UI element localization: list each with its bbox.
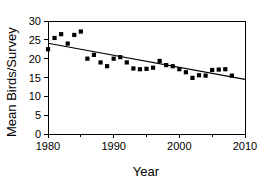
data-point: [184, 70, 188, 74]
data-point: [59, 32, 63, 36]
y-tick-label-30: 30: [29, 15, 41, 27]
x-tick-label-1980: 1980: [36, 140, 60, 152]
y-axis-title: Mean Birds/Survey: [4, 27, 19, 137]
data-point: [204, 74, 208, 78]
data-point: [217, 67, 221, 71]
trend-line: [48, 43, 245, 79]
data-point: [46, 47, 50, 51]
plot-frame: [48, 21, 245, 134]
chart-page: 051015202530 1980199020002010 Mean Birds…: [0, 0, 272, 182]
data-point: [66, 42, 70, 46]
data-point: [52, 36, 56, 40]
trend-line-group: [48, 43, 245, 79]
data-point: [92, 53, 96, 57]
scatter-chart: 051015202530 1980199020002010 Mean Birds…: [0, 0, 272, 182]
data-point: [171, 64, 175, 68]
plot-border: [48, 21, 245, 134]
data-point: [158, 59, 162, 63]
y-tick-label-0: 0: [35, 128, 41, 140]
data-point: [164, 63, 168, 67]
data-point: [197, 73, 201, 77]
y-axis-ticks: 051015202530: [29, 15, 48, 140]
data-point: [131, 66, 135, 70]
data-point: [118, 55, 122, 59]
y-tick-label-25: 25: [29, 34, 41, 46]
data-point: [79, 29, 83, 33]
data-point: [190, 76, 194, 80]
x-tick-label-1990: 1990: [101, 140, 125, 152]
data-point: [223, 67, 227, 71]
data-point: [230, 74, 234, 78]
x-tick-label-2010: 2010: [233, 140, 257, 152]
data-point: [151, 66, 155, 70]
data-point: [105, 64, 109, 68]
y-tick-label-10: 10: [29, 90, 41, 102]
data-point: [138, 67, 142, 71]
data-point: [144, 67, 148, 71]
data-point: [72, 33, 76, 37]
y-tick-label-5: 5: [35, 109, 41, 121]
data-point: [85, 57, 89, 61]
y-tick-label-20: 20: [29, 53, 41, 65]
data-point: [210, 68, 214, 72]
x-tick-label-2000: 2000: [167, 140, 191, 152]
y-tick-label-15: 15: [29, 72, 41, 84]
data-point: [177, 67, 181, 71]
x-axis-ticks: 1980199020002010: [36, 134, 257, 152]
x-axis-title: Year: [133, 164, 160, 179]
data-point: [125, 60, 129, 64]
data-point: [98, 60, 102, 64]
data-point: [112, 57, 116, 61]
